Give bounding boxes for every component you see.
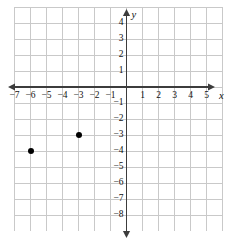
x-tick-label: −4 — [57, 91, 67, 101]
axis-lines — [8, 9, 215, 238]
y-tick-label: −5 — [113, 162, 123, 172]
y-tick-label: −1 — [113, 98, 123, 108]
x-tick-label: 2 — [156, 91, 161, 101]
x-axis-label: x — [219, 91, 224, 102]
x-tick-label: 3 — [172, 91, 177, 101]
x-tick-label: 5 — [204, 91, 209, 101]
y-tick-label: −8 — [113, 210, 123, 220]
y-tick-label: 3 — [119, 34, 124, 44]
x-tick-label: 4 — [188, 91, 193, 101]
y-tick-label: −4 — [113, 146, 123, 156]
x-tick-label: −2 — [89, 91, 99, 101]
y-tick-label: −3 — [113, 130, 123, 140]
y-tick-label: −2 — [113, 114, 123, 124]
x-tick-label: −3 — [73, 91, 83, 101]
y-tick-label: 1 — [119, 66, 124, 76]
y-tick-label: −6 — [113, 178, 123, 188]
data-point — [28, 148, 34, 154]
y-tick-label: 4 — [119, 18, 124, 28]
coordinate-plane: −7−6−5−4−3−2−1123454321−1−2−3−4−5−6−7−8 … — [0, 0, 234, 244]
x-tick-label: −6 — [25, 91, 35, 101]
y-axis-label: y — [132, 10, 137, 21]
x-tick-label: −7 — [9, 91, 19, 101]
y-tick-label: 2 — [119, 50, 124, 60]
x-tick-label: −5 — [41, 91, 51, 101]
x-tick-label: 1 — [140, 91, 145, 101]
y-tick-label: −7 — [113, 194, 123, 204]
data-point — [76, 132, 82, 138]
